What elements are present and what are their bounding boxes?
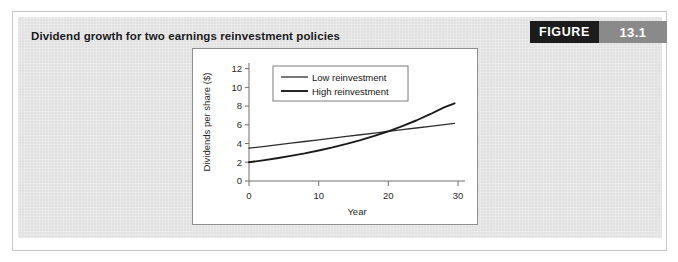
y-tick-label: 4 — [237, 138, 242, 149]
figure-badge-number: 13.1 — [599, 21, 667, 43]
legend-label-high-reinvestment: High reinvestment — [312, 86, 389, 97]
y-tick-label: 6 — [237, 119, 242, 130]
y-tick-label: 10 — [231, 82, 242, 93]
figure-page: Dividend growth for two earnings reinves… — [0, 0, 678, 262]
series-line-low-reinvestment — [249, 123, 455, 148]
y-tick-label: 2 — [237, 157, 242, 168]
y-axis-ticks: 024681012 — [231, 63, 249, 186]
page-title: Dividend growth for two earnings reinves… — [31, 30, 340, 42]
x-tick-label: 30 — [453, 190, 464, 201]
chart-card: 024681012 0102030 Dividends per share ($… — [192, 48, 478, 225]
y-tick-label: 12 — [231, 63, 242, 74]
y-tick-label: 0 — [237, 175, 242, 186]
x-tick-label: 20 — [383, 190, 394, 201]
x-tick-label: 10 — [313, 190, 324, 201]
figure-badge-word: FIGURE — [530, 21, 599, 43]
x-axis-title: Year — [347, 206, 366, 217]
figure-panel: Dividend growth for two earnings reinves… — [18, 17, 662, 238]
x-axis-ticks: 0102030 — [246, 181, 463, 201]
legend-label-low-reinvestment: Low reinvestment — [312, 72, 387, 83]
series-line-high-reinvestment — [249, 103, 455, 162]
chart-legend: Low reinvestment High reinvestment — [273, 66, 408, 101]
chart-series — [249, 103, 455, 162]
x-tick-label: 0 — [246, 190, 251, 201]
y-axis-title: Dividends per share ($) — [201, 73, 212, 172]
y-tick-label: 8 — [237, 100, 242, 111]
line-chart: 024681012 0102030 Dividends per share ($… — [193, 49, 477, 224]
figure-badge: FIGURE 13.1 — [530, 21, 667, 43]
